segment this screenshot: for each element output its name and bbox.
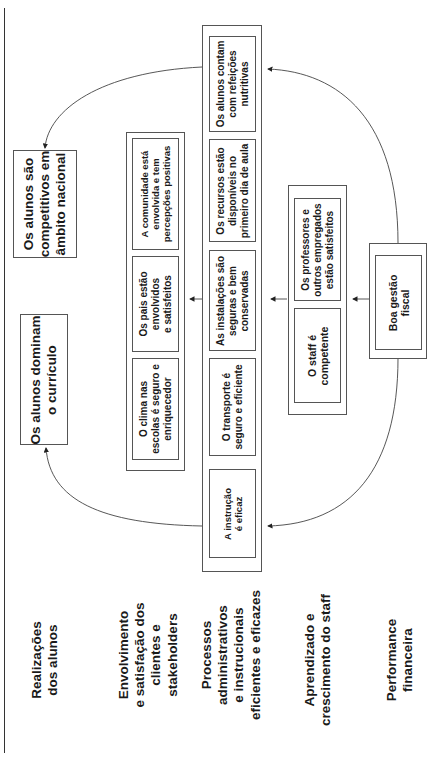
box-text: Os alunos são competitivos em âmbito nac…	[21, 151, 69, 258]
label-text: Aprendizado e crescimento do staff	[302, 594, 334, 726]
box-instruction: A instrução é eficaz	[209, 469, 256, 558]
box-staff-competent: O staff é competente	[294, 308, 341, 403]
label-student-results: Realizações dos alunos	[25, 600, 65, 720]
text-line: outros empregados	[312, 203, 324, 296]
label-text: Performance financeira	[384, 619, 416, 702]
box-meals: Os alunos contam com refeições nutritiva…	[209, 36, 256, 132]
box-text: Os pais estão envolvidos e satisfeitos	[138, 271, 173, 336]
box-master-curriculum: Os alunos dominam o currículo	[20, 314, 68, 445]
label-text: Envolvimento e satisfação dos clientes e…	[115, 602, 180, 707]
text-line: e instrucionais	[231, 590, 247, 720]
text-line: O clima nas	[138, 364, 150, 454]
group-staff: Os professores e outros empregados estão…	[288, 185, 347, 415]
text-line: competitivos em	[37, 151, 53, 258]
text-line: é eficaz	[233, 488, 244, 540]
label-financial: Performance financeira	[380, 610, 420, 710]
text-line: seguro e eficiente	[233, 364, 245, 449]
text-line: Os pais estão	[138, 271, 150, 336]
text-line: Envolvimento	[115, 602, 131, 707]
text-line: A comunidade está	[139, 146, 150, 243]
text-line: estão satisfeitos	[323, 203, 335, 296]
box-community: A comunidade está envolvida e tem percep…	[132, 138, 179, 250]
text-line: clientes e	[148, 602, 164, 707]
box-teachers-satisfied: Os professores e outros empregados estão…	[294, 198, 341, 301]
text-line: e satisfação dos	[131, 602, 147, 707]
label-staff-growth: Aprendizado e crescimento do staff	[298, 590, 338, 730]
text-line: nutritivas	[238, 41, 250, 128]
text-line: Os recursos estão	[215, 143, 227, 237]
box-parents: Os pais estão envolvidos e satisfeitos	[132, 256, 179, 352]
text-line: percepções positivas	[161, 146, 172, 243]
box-text: O clima nas escolas é seguro e enriquece…	[138, 364, 173, 454]
text-line: Os alunos dominam	[28, 315, 44, 444]
text-line: eficientes e eficazes	[247, 590, 263, 720]
text-line: e satisfeitos	[161, 271, 173, 336]
box-text: Os alunos dominam o currículo	[28, 315, 60, 444]
label-text: Processos administrativos e instrucionai…	[198, 590, 263, 720]
text-line: competente	[318, 326, 330, 385]
box-text: As instalações são seguras e bem conserv…	[215, 255, 250, 345]
text-line: crescimento do staff	[318, 594, 334, 726]
text-line: Boa gestão	[386, 274, 398, 331]
group-financial: Boa gestão fiscal	[369, 243, 427, 359]
text-line: Os professores e	[300, 203, 312, 296]
group-processes: Os alunos contam com refeições nutritiva…	[202, 25, 262, 572]
text-line: com refeições	[227, 41, 239, 128]
label-processes: Processos administrativos e instrucionai…	[198, 580, 263, 730]
text-line: dos alunos	[45, 621, 61, 698]
label-stakeholders: Envolvimento e satisfação dos clientes e…	[115, 580, 180, 730]
text-line: Processos	[198, 590, 214, 720]
box-facilities: As instalações são seguras e bem conserv…	[209, 250, 256, 351]
text-line: stakeholders	[164, 602, 180, 707]
box-competitive-nationally: Os alunos são competitivos em âmbito nac…	[13, 150, 77, 258]
box-text: Os recursos estão disponíveis no primeir…	[215, 143, 250, 237]
text-line: escolas é seguro e	[150, 364, 162, 454]
box-text: Boa gestão fiscal	[386, 274, 411, 331]
box-transport: O transporte é seguro e eficiente	[209, 358, 256, 456]
text-line: Performance	[384, 619, 400, 702]
text-line: o currículo	[44, 315, 60, 444]
text-line: âmbito nacional	[53, 151, 69, 258]
text-line: enriquecedor	[161, 364, 173, 454]
text-line: administrativos	[214, 590, 230, 720]
box-text: Os alunos contam com refeições nutritiva…	[215, 41, 250, 128]
label-text: Realizações dos alunos	[29, 621, 61, 698]
box-text: Os professores e outros empregados estão…	[300, 203, 335, 296]
box-resources: Os recursos estão disponíveis no primeir…	[209, 139, 256, 242]
text-line: seguras e bem	[227, 255, 239, 345]
text-line: Realizações	[29, 621, 45, 698]
text-line: O transporte é	[221, 364, 233, 449]
box-text: A instrução é eficaz	[221, 488, 243, 540]
text-line: As instalações são	[215, 255, 227, 345]
group-stakeholders: A comunidade está envolvida e tem percep…	[126, 132, 185, 471]
text-line: fiscal	[399, 274, 411, 331]
text-line: financeira	[400, 619, 416, 702]
text-line: envolvidos	[150, 271, 162, 336]
text-line: Os alunos são	[21, 151, 37, 258]
text-line: A instrução	[221, 488, 232, 540]
text-line: Aprendizado e	[302, 594, 318, 726]
text-line: primeiro dia de aula	[238, 143, 250, 237]
text-line: envolvida e tem	[150, 146, 161, 243]
box-text: O staff é competente	[305, 326, 330, 385]
box-fiscal-management: Boa gestão fiscal	[375, 255, 422, 350]
box-text: A comunidade está envolvida e tem percep…	[139, 146, 173, 243]
text-line: disponíveis no	[227, 143, 239, 237]
box-text: O transporte é seguro e eficiente	[221, 364, 245, 449]
text-line: conservadas	[238, 255, 250, 345]
text-line: O staff é	[305, 326, 317, 385]
box-school-climate: O clima nas escolas é seguro e enriquece…	[132, 358, 179, 460]
text-line: Os alunos contam	[215, 41, 227, 128]
